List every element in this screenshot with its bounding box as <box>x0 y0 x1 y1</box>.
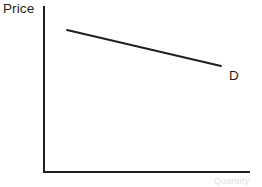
price-axis-label: Price <box>3 2 34 16</box>
demand-curve-diagram: Price D Quantity <box>0 0 262 187</box>
diagram-svg <box>0 0 262 187</box>
quantity-axis-label: Quantity <box>214 177 249 186</box>
demand-curve-label: D <box>229 69 239 83</box>
demand-curve-line <box>67 30 221 66</box>
